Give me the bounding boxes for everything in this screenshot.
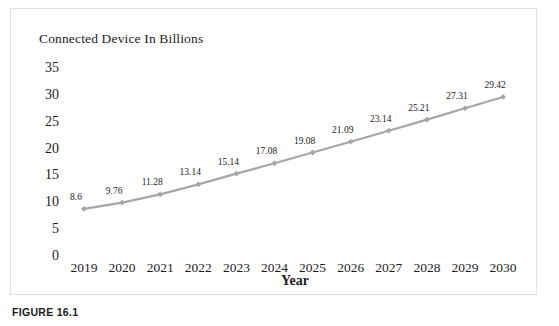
data-point-label: 19.08 (294, 136, 316, 146)
y-axis-tick-label: 20 (45, 141, 59, 156)
data-point-marker (310, 150, 316, 156)
y-axis-tick-label: 25 (45, 114, 59, 129)
data-point-label: 29.42 (484, 80, 506, 90)
y-axis-tick-label: 15 (45, 167, 59, 182)
data-point-label: 25.21 (408, 103, 430, 113)
data-point-marker (424, 117, 430, 123)
figure-caption: FIGURE 16.1 (12, 306, 78, 318)
data-point-marker (119, 200, 125, 206)
line-chart-plot: 05101520253035 2019202020212022202320242… (11, 9, 538, 296)
series-line (84, 97, 503, 209)
data-point-label: 17.08 (256, 146, 278, 156)
data-point-marker (462, 105, 468, 111)
data-point-label: 11.28 (142, 177, 163, 187)
x-axis-tick-label: 2019 (71, 260, 98, 275)
figure-border: Connected Device In Billions 05101520253… (10, 8, 537, 295)
x-axis-tick-label: 2030 (490, 260, 517, 275)
data-point-marker (195, 182, 201, 188)
y-axis-tick-label: 30 (45, 87, 59, 102)
data-point-markers (81, 94, 506, 212)
x-axis-tick-label: 2022 (185, 260, 212, 275)
data-point-marker (81, 206, 87, 212)
data-point-label: 13.14 (180, 167, 202, 177)
x-axis-tick-label: 2020 (109, 260, 136, 275)
y-axis-tick-label: 5 (52, 221, 59, 236)
x-axis-tick-label: 2029 (452, 260, 479, 275)
x-axis-tick-label: 2021 (147, 260, 174, 275)
data-point-marker (234, 171, 240, 177)
data-point-label: 23.14 (370, 114, 392, 124)
x-axis-tick-label: 2026 (337, 260, 364, 275)
data-point-label: 15.14 (218, 157, 240, 167)
x-axis-tick-label: 2028 (413, 260, 440, 275)
data-point-marker (386, 128, 392, 134)
data-point-marker (348, 139, 354, 145)
x-axis-title: Year (281, 273, 309, 288)
y-axis-tick-label: 0 (52, 248, 59, 263)
x-axis-tick-label: 2027 (375, 260, 402, 275)
data-point-marker (500, 94, 506, 100)
data-point-label: 9.76 (106, 186, 123, 196)
x-axis-tick-label: 2023 (223, 260, 250, 275)
data-point-marker (157, 192, 163, 198)
y-axis-tick-label: 10 (45, 194, 59, 209)
y-axis-tick-label: 35 (45, 60, 59, 75)
y-axis-tick-labels: 05101520253035 (45, 60, 59, 263)
data-point-label: 27.31 (446, 91, 468, 101)
data-point-label: 21.09 (332, 125, 354, 135)
data-series-line (84, 97, 503, 209)
data-point-labels: 8.69.7611.2813.1415.1417.0819.0821.0923.… (70, 80, 506, 202)
data-point-marker (272, 160, 278, 166)
data-point-label: 8.6 (70, 192, 82, 202)
